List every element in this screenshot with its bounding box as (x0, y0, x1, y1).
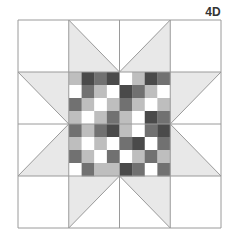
checker-square-mid (145, 150, 158, 163)
checker-square-light (157, 98, 170, 111)
checker-square-mid (94, 72, 107, 85)
checker-square-dark (132, 137, 145, 150)
checker-square-white (94, 150, 107, 163)
checker-square-mid (82, 163, 95, 176)
checker-square-mid (69, 98, 82, 111)
checker-square-dark (120, 85, 133, 98)
checker-square-light (132, 98, 145, 111)
checker-square-mid (69, 124, 82, 137)
checker-square-white (69, 163, 82, 176)
checker-square-light (69, 111, 82, 124)
checker-square-light (132, 150, 145, 163)
checker-square-light (69, 72, 82, 85)
checker-square-dark (120, 163, 133, 176)
checker-square-mid (69, 150, 82, 163)
grid-lines (18, 20, 221, 228)
checker-square-mid (132, 85, 145, 98)
checker-square-white (157, 85, 170, 98)
checker-square-dark (82, 72, 95, 85)
checker-square-light (120, 111, 133, 124)
checker-square-dark (157, 124, 170, 137)
checker-square-mid (120, 137, 133, 150)
checker-square-light (132, 72, 145, 85)
checker-square-white (145, 163, 158, 176)
checker-square-mid (157, 111, 170, 124)
checker-square-light (157, 150, 170, 163)
checker-square-light (94, 111, 107, 124)
checker-square-dark (107, 72, 120, 85)
checker-square-light (82, 124, 95, 137)
checker-square-white (107, 137, 120, 150)
checker-square-white (82, 111, 95, 124)
checker-square-white (132, 124, 145, 137)
checker-square-white (107, 85, 120, 98)
checker-square-white (94, 98, 107, 111)
checker-square-white (82, 137, 95, 150)
checker-square-light (107, 98, 120, 111)
checker-square-light (94, 85, 107, 98)
checker-square-white (69, 85, 82, 98)
checker-square-dark (145, 72, 158, 85)
checker-square-white (145, 137, 158, 150)
checker-square-mid (157, 137, 170, 150)
checker-square-light (107, 163, 120, 176)
quilt-block (0, 0, 233, 244)
checker-square-light (82, 98, 95, 111)
checker-square-mid (94, 124, 107, 137)
checker-square-light (145, 85, 158, 98)
checker-square-mid (157, 72, 170, 85)
checker-square-light (94, 137, 107, 150)
checker-square-light (69, 137, 82, 150)
checker-square-dark (107, 124, 120, 137)
checker-square-mid (107, 111, 120, 124)
checker-square-white (120, 150, 133, 163)
checker-square-mid (157, 163, 170, 176)
checker-square-mid (107, 150, 120, 163)
checker-square-white (132, 111, 145, 124)
checker-square-dark (145, 111, 158, 124)
checker-square-mid (132, 163, 145, 176)
checker-square-white (120, 72, 133, 85)
checker-square-light (82, 150, 95, 163)
checker-square-mid (82, 85, 95, 98)
checker-square-mid (120, 98, 133, 111)
checker-square-light (94, 163, 107, 176)
checker-square-white (145, 98, 158, 111)
checker-square-light (120, 124, 133, 137)
checker-square-mid (145, 124, 158, 137)
